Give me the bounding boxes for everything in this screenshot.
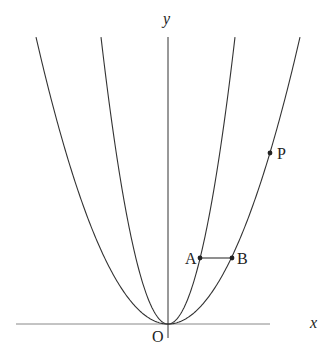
- x-axis-label: x: [309, 314, 317, 331]
- point-a: [198, 256, 203, 261]
- point-b: [230, 256, 235, 261]
- point-p: [268, 151, 273, 156]
- point-p-label: P: [277, 145, 286, 162]
- point-a-label: A: [185, 250, 197, 267]
- origin-label: O: [152, 328, 164, 345]
- parabola-diagram: y x O A B P: [0, 0, 331, 351]
- y-axis-label: y: [161, 10, 171, 28]
- point-b-label: B: [237, 250, 248, 267]
